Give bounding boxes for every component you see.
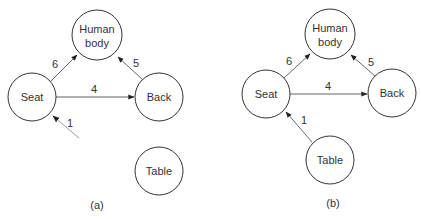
- node-human-body: Human body: [72, 10, 122, 60]
- edge-weight-back-human: 5: [368, 56, 374, 68]
- node-label-line2: body: [318, 36, 342, 48]
- node-table: Table: [306, 136, 354, 184]
- edge-table-to-seat: [286, 112, 312, 142]
- edge-weight-seat-back: 4: [325, 80, 331, 92]
- node-label-line1: Human: [312, 22, 347, 34]
- diagram-a: 6 5 4 1 Human body Seat Back Table (a): [8, 10, 183, 211]
- node-label: Table: [146, 165, 172, 177]
- edge-external-to-seat: [53, 116, 79, 138]
- node-label: Seat: [21, 91, 44, 103]
- edge-weight-seat-human: 6: [52, 58, 58, 70]
- diagram-canvas: 6 5 4 1 Human body Seat Back Table (a): [0, 0, 421, 219]
- edge-weight-external-seat: 1: [67, 117, 73, 129]
- edge-back-to-human-body: [118, 57, 143, 80]
- edge-weight-table-seat: 1: [301, 114, 307, 126]
- caption-b: (b): [326, 197, 339, 209]
- node-label: Seat: [255, 88, 278, 100]
- edge-weight-seat-back: 4: [91, 83, 97, 95]
- node-back: Back: [368, 69, 416, 117]
- node-table: Table: [135, 147, 183, 195]
- node-seat: Seat: [8, 73, 56, 121]
- node-seat: Seat: [242, 70, 290, 118]
- node-back: Back: [135, 73, 183, 121]
- edge-weight-seat-human: 6: [286, 55, 292, 67]
- node-human-body: Human body: [305, 9, 355, 59]
- node-label-line1: Human: [79, 23, 114, 35]
- node-label: Table: [317, 154, 343, 166]
- node-label: Back: [147, 91, 172, 103]
- node-label-line2: body: [85, 37, 109, 49]
- edge-weight-back-human: 5: [133, 57, 139, 69]
- caption-a: (a): [90, 199, 103, 211]
- node-label: Back: [380, 87, 405, 99]
- diagram-b: 6 5 4 1 Human body Seat Back Table (b): [242, 9, 416, 209]
